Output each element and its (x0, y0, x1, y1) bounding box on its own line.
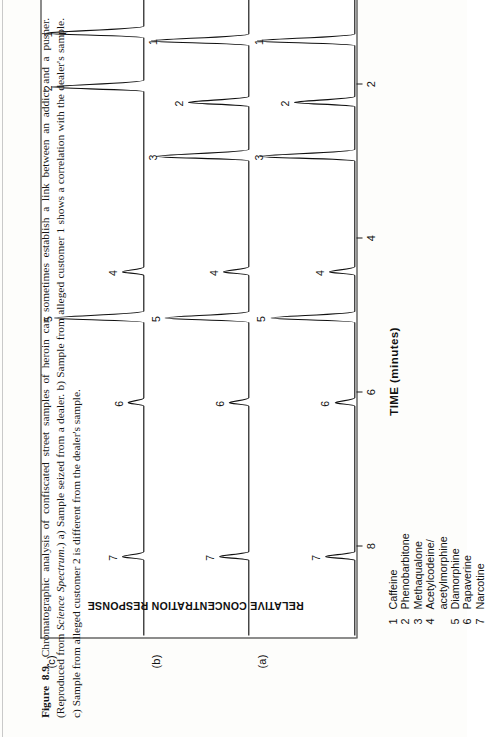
peak-label-1: 1 (147, 39, 159, 45)
legend-compound-name: Narcotine (473, 563, 485, 609)
peak-label-7: 7 (204, 555, 216, 561)
legend-number: 7 (473, 610, 485, 625)
chromatogram-panel-b: 7654321 (147, 0, 252, 638)
legend-compound-name: Diamorphine (449, 548, 461, 609)
peak-label-4: 4 (106, 270, 118, 276)
legend-number: 2 (399, 610, 411, 625)
legend-item-3: 3Methaqualone (411, 533, 423, 624)
peak-label-5: 5 (149, 316, 161, 322)
peak-label-1: 1 (252, 39, 264, 45)
time-axis: 8642 (357, 0, 383, 639)
legend-item-6: 6Papaverine (461, 533, 473, 624)
legend-compound-name: Caffeine (387, 569, 399, 609)
axis-tick-label-4: 4 (365, 235, 377, 241)
axis-tick-2 (357, 84, 363, 85)
legend-compound-name: Papaverine (461, 555, 473, 610)
peak-label-6: 6 (319, 401, 331, 407)
peak-label-5: 5 (255, 316, 267, 322)
peak-label-6: 6 (112, 401, 124, 407)
legend-item-5: 5Diamorphine (449, 533, 461, 624)
legend-number: 4 (424, 610, 436, 625)
legend-compound-name: Methaqualone (411, 541, 423, 609)
legend-compound-name: Phenobarbitone (399, 533, 411, 609)
axis-tick-label-8: 8 (365, 543, 377, 549)
page-edge-rule (2, 0, 3, 737)
axis-tick-label-2: 2 (365, 81, 377, 87)
chromatogram-trace (252, 0, 357, 638)
legend-item-7: 7Narcotine (473, 533, 485, 624)
compound-legend: 1Caffeine2Phenobarbitone3Methaqualone4Ac… (387, 533, 486, 624)
legend-compound-name: Acetylcodeine/ acetylmorphine (424, 536, 449, 609)
legend-item-2: 2Phenobarbitone (399, 533, 411, 624)
axis-tick-4 (357, 238, 363, 239)
panel-label-a: (a) (255, 654, 267, 668)
axis-tick-6 (357, 392, 363, 393)
peak-label-4: 4 (208, 270, 220, 276)
chromatogram-trace (147, 0, 252, 638)
peak-label-3: 3 (252, 155, 264, 161)
legend-item-4: 4Acetylcodeine/ acetylmorphine (424, 533, 449, 624)
peak-label-4: 4 (313, 270, 325, 276)
legend-number: 5 (449, 610, 461, 625)
caption-source: Science Spectrum (54, 549, 66, 630)
peak-label-6: 6 (214, 401, 226, 407)
peak-label-7: 7 (309, 555, 321, 561)
peak-label-2: 2 (278, 101, 290, 107)
peak-label-3: 3 (147, 155, 159, 161)
legend-number: 1 (387, 610, 399, 625)
legend-number: 3 (411, 610, 423, 625)
figure-caption: Figure 8.9. Chromatographic analysis of … (38, 18, 100, 718)
legend-number: 6 (461, 610, 473, 625)
axis-tick-8 (357, 545, 363, 546)
peak-label-2: 2 (173, 101, 185, 107)
chromatogram-panel-a: 7654321 (252, 0, 357, 638)
axis-tick-label-6: 6 (365, 389, 377, 395)
axis-line (357, 0, 358, 639)
peak-label-7: 7 (106, 555, 118, 561)
panel-label-b: (b) (150, 654, 162, 668)
legend-item-1: 1Caffeine (387, 533, 399, 624)
figure-number: Figure 8.9. (39, 663, 51, 718)
